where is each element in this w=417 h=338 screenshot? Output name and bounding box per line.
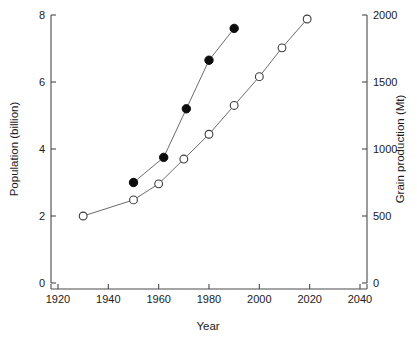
data-point-series2-6 [255, 73, 263, 81]
y-axis-right-title: Grain production (Mt) [394, 95, 406, 204]
y2-tick-label: 1500 [373, 76, 397, 88]
data-point-series1-0 [129, 178, 137, 186]
data-point-series1-2 [182, 105, 190, 113]
x-tick-label: 2020 [297, 293, 321, 305]
data-point-series2-2 [155, 180, 163, 188]
y2-tick-label: 2000 [373, 9, 397, 21]
x-tick-label: 1920 [46, 293, 70, 305]
x-tick-label: 2040 [348, 293, 372, 305]
x-axis-title: Year [196, 320, 219, 332]
y-tick-label: 0 [39, 277, 45, 289]
data-point-series2-5 [230, 102, 238, 110]
data-point-series2-8 [303, 15, 311, 23]
data-point-series1-1 [160, 153, 168, 161]
y-tick-label: 4 [39, 143, 45, 155]
data-point-series2-1 [130, 196, 138, 204]
y-tick-label: 2 [39, 210, 45, 222]
y2-tick-label: 0 [373, 277, 379, 289]
data-point-series1-3 [205, 56, 213, 64]
data-point-series2-3 [180, 155, 188, 163]
x-tick-label: 1960 [146, 293, 170, 305]
x-tick-label: 2000 [247, 293, 271, 305]
x-tick-label: 1940 [96, 293, 120, 305]
chart-container: 1920194019601980200020202040 02468 05001… [0, 0, 417, 338]
y-tick-label: 6 [39, 76, 45, 88]
data-point-series2-0 [79, 212, 87, 220]
x-tick-label: 1980 [197, 293, 221, 305]
data-point-series2-4 [205, 130, 213, 138]
data-point-series2-7 [278, 44, 286, 52]
y-tick-label: 8 [39, 9, 45, 21]
y-axis-left-title: Population (billion) [8, 102, 20, 197]
data-point-series1-4 [230, 24, 238, 32]
population-grain-production-chart: 1920194019601980200020202040 02468 05001… [0, 0, 417, 338]
y2-tick-label: 500 [373, 210, 391, 222]
